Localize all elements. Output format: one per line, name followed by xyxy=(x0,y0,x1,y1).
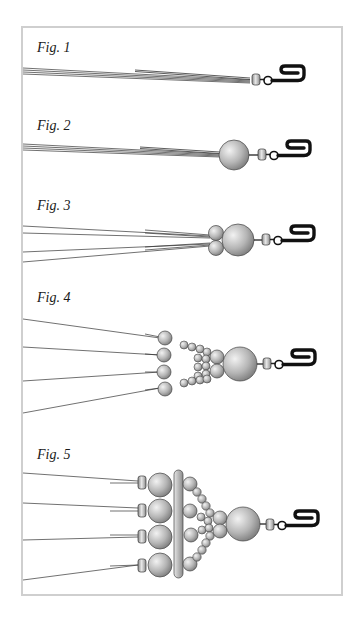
fig-2-drawing xyxy=(23,140,310,170)
diagram-art xyxy=(0,0,359,632)
fig-4-drawing xyxy=(23,319,315,413)
fig-5-drawing xyxy=(23,470,318,580)
fig-3-drawing xyxy=(23,224,314,262)
fig-1-drawing xyxy=(23,66,304,85)
